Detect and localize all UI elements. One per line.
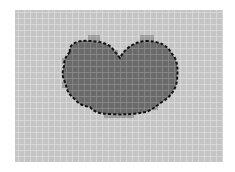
diagram-canvas <box>0 0 235 172</box>
grid-diagram <box>0 0 235 172</box>
